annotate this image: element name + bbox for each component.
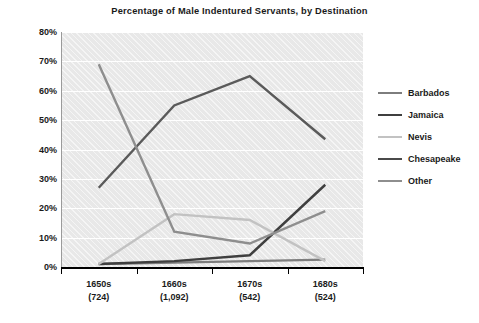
legend-swatch-icon	[378, 92, 402, 95]
line-chart: Percentage of Male Indentured Servants, …	[0, 0, 479, 323]
x-axis-tick-mark	[137, 268, 138, 274]
legend-swatch-icon	[378, 180, 402, 183]
legend-label: Nevis	[408, 132, 432, 142]
series-line-chesapeake	[99, 76, 326, 188]
legend-label: Jamaica	[408, 110, 444, 120]
x-axis-tick-label: 1660s(1,092)	[131, 278, 217, 303]
chart-legend: BarbadosJamaicaNevisChesapeakeOther	[378, 82, 478, 192]
legend-item-other[interactable]: Other	[378, 170, 478, 192]
x-axis-tick-mark	[212, 268, 213, 274]
x-axis-tick-mark	[288, 268, 289, 274]
legend-swatch-icon	[378, 158, 402, 161]
y-axis-line	[61, 32, 62, 268]
x-axis-tick-label: 1650s(724)	[56, 278, 142, 303]
x-axis-tick-mark	[363, 268, 364, 274]
legend-swatch-icon	[378, 136, 402, 139]
series-line-jamaica	[99, 185, 326, 264]
x-axis-tick-label: 1680s(524)	[282, 278, 368, 303]
x-axis-decade: 1670s	[237, 279, 262, 289]
x-axis-tick-mark	[61, 268, 62, 274]
x-axis-decade: 1650s	[86, 279, 111, 289]
legend-item-chesapeake[interactable]: Chesapeake	[378, 148, 478, 170]
series-line-nevis	[99, 214, 326, 264]
legend-item-barbados[interactable]: Barbados	[378, 82, 478, 104]
legend-label: Other	[408, 176, 432, 186]
x-axis-sample-count: (1,092)	[131, 291, 217, 304]
legend-label: Chesapeake	[408, 154, 461, 164]
x-axis-decade: 1680s	[313, 279, 338, 289]
x-axis-decade: 1660s	[162, 279, 187, 289]
x-axis-sample-count: (524)	[282, 291, 368, 304]
legend-item-jamaica[interactable]: Jamaica	[378, 104, 478, 126]
legend-item-nevis[interactable]: Nevis	[378, 126, 478, 148]
legend-swatch-icon	[378, 114, 402, 117]
x-axis-sample-count: (542)	[207, 291, 293, 304]
x-axis-tick-label: 1670s(542)	[207, 278, 293, 303]
x-axis-sample-count: (724)	[56, 291, 142, 304]
legend-label: Barbados	[408, 88, 450, 98]
